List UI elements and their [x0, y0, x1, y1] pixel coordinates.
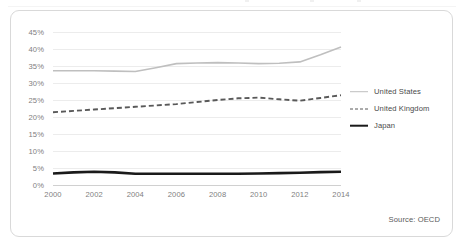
x-tick-label: 2008: [203, 190, 233, 199]
x-tick-label: 2012: [285, 190, 315, 199]
legend-item[interactable]: United States: [350, 84, 455, 99]
x-tick-label: 2010: [244, 190, 274, 199]
legend-item[interactable]: Japan: [350, 118, 455, 133]
x-tick-label: 2000: [38, 190, 68, 199]
legend-label: United Kingdom: [374, 104, 429, 113]
legend-item[interactable]: United Kingdom: [350, 101, 455, 116]
legend-swatch-icon: [350, 87, 368, 97]
x-tick-label: 2002: [79, 190, 109, 199]
legend-label: United States: [374, 87, 421, 96]
chart-legend: United StatesUnited KingdomJapan: [350, 84, 455, 135]
x-tick-label: 2006: [161, 190, 191, 199]
x-tick-label: 2014: [326, 190, 356, 199]
legend-label: Japan: [374, 121, 395, 130]
legend-swatch-icon: [350, 121, 368, 131]
x-tick-label: 2004: [120, 190, 150, 199]
legend-swatch-icon: [350, 104, 368, 114]
source-note: Source: OECD: [330, 215, 440, 224]
